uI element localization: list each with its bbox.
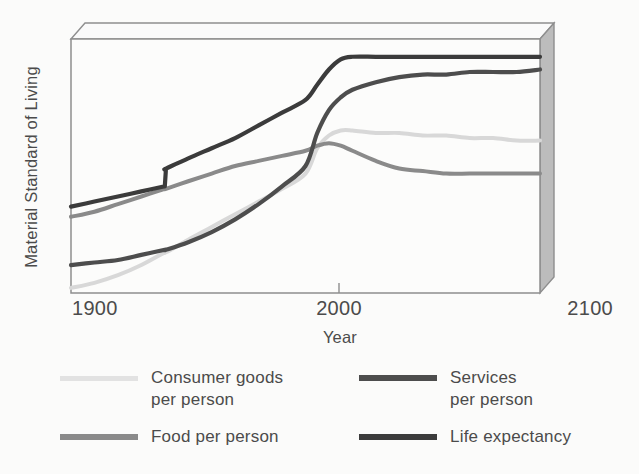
y-axis-title: Material Standard of Living	[22, 66, 40, 268]
legend-label-services-line2: per person	[450, 390, 533, 409]
legend-item-consumer-goods[interactable]: Consumer goods per person	[60, 368, 283, 409]
x-axis-title: Year	[323, 328, 357, 346]
chart-root: 1900 2000 2100 Year Material Standard of…	[0, 0, 639, 474]
legend-label-food: Food per person	[151, 427, 279, 446]
box-top-face	[71, 23, 554, 39]
life-expectancy-swatch	[359, 434, 437, 440]
food-swatch	[60, 434, 138, 440]
legend-item-life-expectancy[interactable]: Life expectancy	[359, 427, 571, 446]
legend-label-consumer-goods-line1: Consumer goods	[151, 368, 283, 387]
x-tick-label-2000: 2000	[316, 297, 362, 319]
legend-item-services[interactable]: Services per person	[359, 368, 533, 409]
chart-legend: Consumer goods per person Services per p…	[60, 368, 571, 446]
box-right-face	[540, 23, 554, 293]
material-standard-of-living-chart: 1900 2000 2100 Year Material Standard of…	[0, 0, 639, 474]
x-tick-label-2100: 2100	[567, 297, 613, 319]
legend-label-consumer-goods-line2: per person	[151, 390, 234, 409]
legend-item-food[interactable]: Food per person	[60, 427, 279, 446]
consumer-goods-swatch	[60, 376, 138, 381]
legend-label-services-line1: Services	[450, 368, 517, 387]
legend-label-life-expectancy: Life expectancy	[450, 427, 571, 446]
services-swatch	[359, 375, 437, 381]
x-tick-label-1900: 1900	[72, 297, 118, 319]
